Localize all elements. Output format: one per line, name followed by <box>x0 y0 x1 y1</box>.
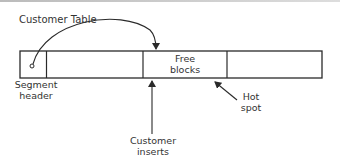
free-blocks-line1: Free <box>160 53 210 64</box>
customer-inserts-label: Customer inserts <box>125 135 181 157</box>
hot-spot-line1: Hot <box>238 91 264 102</box>
hot-spot-arrow <box>215 82 237 100</box>
hot-spot-line2: spot <box>238 102 264 113</box>
free-blocks-line2: blocks <box>160 64 210 75</box>
segment-header-line2: header <box>14 90 58 101</box>
customer-inserts-line2: inserts <box>125 146 181 157</box>
diagram-title: Customer Table <box>19 14 97 25</box>
free-blocks-label: Free blocks <box>160 53 210 75</box>
segment-header-line1: Segment <box>14 79 58 90</box>
customer-inserts-line1: Customer <box>125 135 181 146</box>
hot-spot-label: Hot spot <box>238 91 264 113</box>
segment-header-label: Segment header <box>14 79 58 101</box>
